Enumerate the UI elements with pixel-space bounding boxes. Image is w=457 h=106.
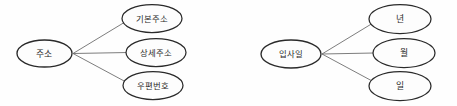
node-address-label: 주소	[36, 49, 52, 59]
node-basic-address-label: 기본주소	[136, 14, 169, 24]
node-year-label: 년	[396, 14, 404, 24]
node-year[interactable]: 년	[369, 5, 431, 34]
address-edges	[73, 22, 128, 82]
node-postal-code[interactable]: 우편번호	[123, 72, 183, 100]
diagram-canvas: 주소 기본주소 상세주소 우편번호	[0, 0, 457, 106]
address-diagram: 주소 기본주소 상세주소 우편번호	[17, 5, 186, 100]
node-day[interactable]: 일	[369, 72, 431, 101]
node-postal-code-label: 우편번호	[137, 81, 170, 91]
hiredate-diagram: 입사일 년 월 일	[261, 5, 435, 101]
edge-address-to-postal-code	[73, 54, 126, 83]
edge-hiredate-to-month	[322, 53, 374, 54]
edge-address-to-detail-address	[73, 53, 128, 54]
node-month-label: 월	[400, 47, 408, 58]
node-address[interactable]: 주소	[17, 40, 72, 67]
node-hiredate-label: 입사일	[279, 49, 303, 59]
edge-hiredate-to-day	[322, 54, 374, 82]
edge-hiredate-to-year	[322, 23, 373, 54]
node-day-label: 일	[396, 81, 404, 91]
node-detail-address[interactable]: 상세주소	[126, 39, 186, 67]
node-hiredate[interactable]: 입사일	[261, 40, 321, 68]
node-basic-address[interactable]: 기본주소	[122, 5, 182, 33]
hiredate-edges	[322, 23, 374, 82]
node-detail-address-label: 상세주소	[140, 48, 173, 58]
composite-attribute-diagram-svg: 주소 기본주소 상세주소 우편번호	[0, 0, 457, 106]
edge-address-to-basic-address	[73, 22, 125, 54]
node-month[interactable]: 월	[373, 39, 435, 68]
